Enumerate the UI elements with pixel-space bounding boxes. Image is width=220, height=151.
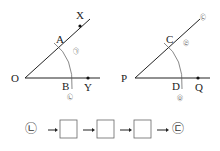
- arrow-icon: [129, 128, 132, 132]
- arrow-icon: [92, 128, 95, 132]
- label-a: A: [56, 33, 64, 45]
- figure-left: O X Y A B ㉠ ㉡: [11, 9, 100, 101]
- blank-box-2[interactable]: [97, 120, 114, 138]
- label-o: O: [11, 72, 19, 84]
- mark-digeut: ㉢: [200, 13, 206, 21]
- label-y: Y: [84, 81, 92, 93]
- point-x-dot: [78, 24, 81, 27]
- ray-p-upper: [135, 19, 200, 78]
- figure-right: P Q C D ㉢ ㉣ ㉤: [121, 13, 210, 102]
- label-x: X: [76, 9, 84, 21]
- label-q: Q: [195, 81, 203, 93]
- blank-box-3[interactable]: [134, 120, 151, 138]
- mark-giyeok: ㉠: [73, 47, 79, 55]
- point-q-dot: [196, 76, 199, 79]
- angle-copy-diagram: O X Y A B ㉠ ㉡ P Q C D ㉢ ㉣ ㉤ ㉡ ㉢: [0, 0, 220, 151]
- sequence-start: ㉡: [25, 122, 37, 136]
- blank-box-1[interactable]: [60, 120, 77, 138]
- label-b: B: [62, 80, 69, 92]
- mark-mieum: ㉤: [177, 94, 183, 102]
- label-p: P: [121, 72, 127, 84]
- sequence-row: ㉡ ㉢: [25, 120, 184, 138]
- mark-rieul: ㉣: [183, 39, 189, 47]
- label-d: D: [172, 80, 180, 92]
- ray-ox: [25, 19, 90, 78]
- label-c: C: [166, 33, 173, 45]
- sequence-end: ㉢: [172, 122, 184, 136]
- arrow-icon: [166, 128, 169, 132]
- point-y-dot: [86, 76, 89, 79]
- mark-nieun: ㉡: [67, 93, 73, 101]
- arrow-icon: [55, 128, 58, 132]
